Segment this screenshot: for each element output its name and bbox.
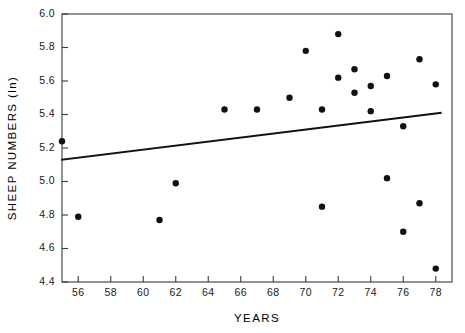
x-axis-title: YEARS — [234, 312, 280, 324]
data-point — [433, 81, 439, 87]
y-tick-label: 5.4 — [39, 107, 55, 119]
data-point — [173, 180, 179, 186]
x-tick-label: 74 — [365, 286, 377, 298]
y-tick-label: 5.0 — [39, 174, 55, 186]
data-point — [400, 229, 406, 235]
data-point — [384, 175, 390, 181]
data-point — [351, 66, 357, 72]
data-point — [286, 95, 292, 101]
data-point — [254, 106, 260, 112]
x-tick-label: 64 — [202, 286, 214, 298]
x-tick-label: 70 — [300, 286, 312, 298]
y-tick-label: 4.6 — [39, 241, 55, 253]
data-point — [221, 106, 227, 112]
x-tick-label: 72 — [332, 286, 344, 298]
x-tick-label: 58 — [105, 286, 117, 298]
x-tick-label: 76 — [397, 286, 409, 298]
data-point — [400, 123, 406, 129]
x-tick-label: 68 — [267, 286, 279, 298]
data-point — [319, 203, 325, 209]
y-axis-tick-labels: 4.44.64.85.05.25.45.65.86.0 — [39, 7, 55, 287]
x-tick-label: 66 — [235, 286, 247, 298]
y-tick-label: 6.0 — [39, 7, 55, 19]
y-axis-title: SHEEP NUMBERS (ln) — [6, 76, 18, 220]
y-tick-label: 5.8 — [39, 40, 55, 52]
y-tick-label: 4.8 — [39, 208, 55, 220]
data-point — [368, 83, 374, 89]
data-point — [303, 48, 309, 54]
x-tick-label: 56 — [72, 286, 84, 298]
data-point — [416, 56, 422, 62]
data-point — [59, 138, 65, 144]
data-point — [335, 31, 341, 37]
chart-figure: 4.44.64.85.05.25.45.65.86.0 565860626466… — [0, 0, 465, 333]
x-tick-label: 62 — [170, 286, 182, 298]
data-point — [319, 106, 325, 112]
y-tick-label: 5.6 — [39, 74, 55, 86]
data-point — [75, 213, 81, 219]
x-tick-label: 60 — [137, 286, 149, 298]
data-point — [156, 217, 162, 223]
data-point — [433, 265, 439, 271]
y-tick-label: 5.2 — [39, 141, 55, 153]
data-point — [384, 73, 390, 79]
data-point — [416, 200, 422, 206]
scatter-plot: 4.44.64.85.05.25.45.65.86.0 565860626466… — [0, 0, 465, 333]
data-point — [335, 74, 341, 80]
x-tick-label: 78 — [430, 286, 442, 298]
y-tick-label: 4.4 — [39, 275, 55, 287]
data-point — [351, 90, 357, 96]
plot-background — [0, 0, 465, 333]
data-point — [368, 108, 374, 114]
